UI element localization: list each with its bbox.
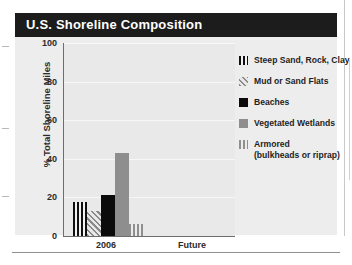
x-axis-tick-label: 2006: [63, 240, 149, 250]
gridline: [63, 120, 235, 121]
page-title: U.S. Shoreline Composition: [26, 17, 202, 32]
y-axis-tick-label: 0: [23, 231, 57, 241]
legend-item-label: Steep Sand, Rock, Clay: [254, 55, 351, 66]
legend-item[interactable]: Steep Sand, Rock, Clay: [239, 55, 351, 67]
y-axis-line: [63, 43, 64, 237]
x-axis-tick-label: Future: [149, 240, 235, 250]
gridline: [63, 159, 235, 160]
legend-item[interactable]: Mud or Sand Flats: [239, 76, 351, 88]
chart-legend: Steep Sand, Rock, ClayMud or Sand FlatsB…: [239, 55, 351, 169]
legend-item-label-line2: (bulkheads or riprap): [254, 150, 351, 161]
page-artifact-mark: [2, 128, 9, 129]
bar-solid-black: [101, 195, 115, 236]
legend-item-label: Armored(bulkheads or riprap): [254, 139, 351, 160]
page-left-margin: [0, 0, 14, 265]
page-artifact-mark: [2, 196, 9, 197]
section-divider: [12, 252, 340, 253]
legend-item-label: Vegetated Wetlands: [254, 118, 351, 129]
legend-item[interactable]: Armored(bulkheads or riprap): [239, 139, 351, 160]
plot-area: [63, 43, 235, 236]
legend-item-label: Beaches: [254, 97, 351, 108]
legend-swatch-icon: [239, 140, 248, 149]
legend-item-label: Mud or Sand Flats: [254, 76, 351, 87]
gridline: [63, 82, 235, 83]
chart-title-bar: U.S. Shoreline Composition: [15, 13, 337, 37]
gridline: [63, 43, 235, 44]
y-axis-tick-label: 20: [23, 192, 57, 202]
bar-vertical-stripe-gray: [129, 224, 143, 236]
page-artifact-mark: [2, 46, 9, 47]
legend-swatch-icon: [239, 56, 248, 65]
bar-diagonal-hatch: [87, 211, 101, 236]
legend-swatch-icon: [239, 77, 248, 86]
legend-item[interactable]: Vegetated Wetlands: [239, 118, 351, 130]
gridline: [63, 197, 235, 198]
y-axis-label: % Total Shoreline Miles: [41, 40, 52, 190]
legend-swatch-icon: [239, 98, 248, 107]
chart-panel: U.S. Shoreline Composition 020406080100 …: [15, 13, 337, 235]
x-axis-line: [63, 236, 235, 237]
legend-item[interactable]: Beaches: [239, 97, 351, 109]
bar-vertical-stripe-dark: [73, 202, 87, 236]
legend-swatch-icon: [239, 119, 248, 128]
bar-solid-gray: [115, 153, 129, 236]
